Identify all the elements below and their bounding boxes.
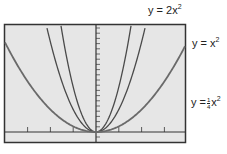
graph-plot xyxy=(0,0,227,154)
fraction-one-quarter: 14 xyxy=(207,97,210,110)
label-quarter-x2: y =14x2 xyxy=(191,95,221,110)
plot-frame xyxy=(5,25,186,143)
label-x2: y = x2 xyxy=(192,36,219,49)
label-2x2: y = 2x2 xyxy=(148,3,182,16)
